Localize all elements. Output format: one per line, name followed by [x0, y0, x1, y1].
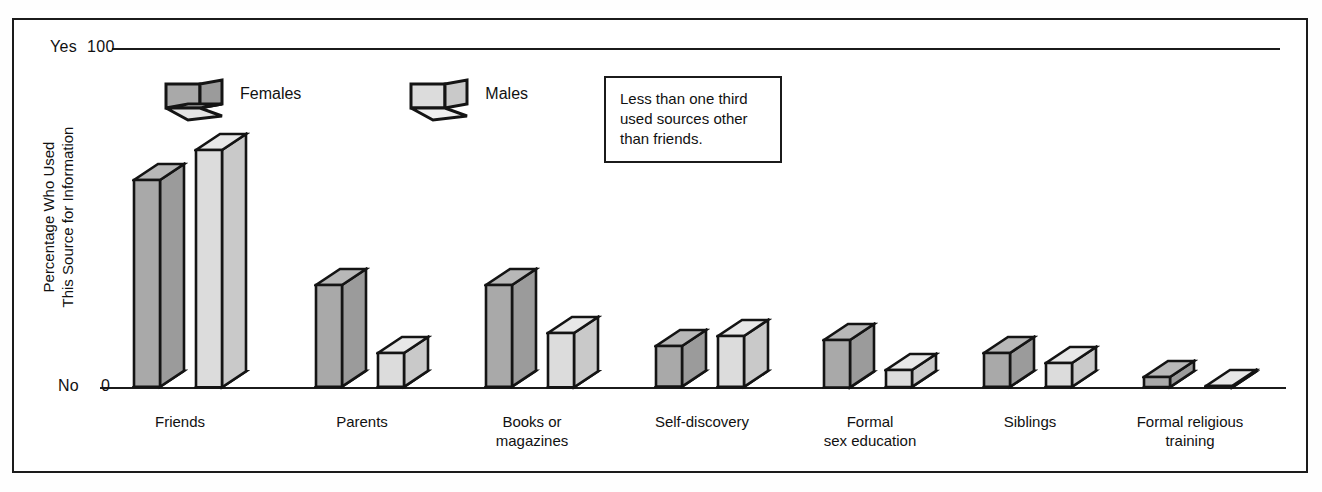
bar-male: [716, 318, 772, 409]
x-axis-label: Books ormagazines: [452, 412, 612, 450]
figure-canvas: Yes100 No0 Percentage Who Used This Sour…: [0, 0, 1322, 492]
x-axis-label-line2: training: [1110, 431, 1270, 450]
x-axis-label: Siblings: [950, 412, 1110, 431]
x-axis-label-line1: Siblings: [950, 412, 1110, 431]
bar-female: [822, 322, 878, 409]
bar-female: [654, 328, 710, 409]
x-axis-label-line1: Friends: [100, 412, 260, 431]
figure-frame: Yes100 No0 Percentage Who Used This Sour…: [12, 18, 1308, 473]
bar-male: [194, 132, 250, 409]
x-axis-label-line2: sex education: [790, 431, 950, 450]
x-axis-label: Formal religioustraining: [1110, 412, 1270, 450]
plot-area: Yes100 No0 Percentage Who Used This Sour…: [14, 20, 1310, 475]
bar-female: [484, 267, 540, 409]
x-axis-labels: FriendsParentsBooks ormagazinesSelf-disc…: [14, 398, 1310, 468]
x-axis-label: Self-discovery: [622, 412, 782, 431]
x-axis-label: Parents: [282, 412, 442, 431]
x-axis-label-line1: Formal: [790, 412, 950, 431]
x-axis-label-line1: Self-discovery: [622, 412, 782, 431]
bar-male: [546, 315, 602, 409]
bar-female: [132, 162, 188, 409]
x-axis-label-line1: Books or: [452, 412, 612, 431]
x-axis-label: Formalsex education: [790, 412, 950, 450]
x-axis-label-line2: magazines: [452, 431, 612, 450]
x-axis-label: Friends: [100, 412, 260, 431]
bar-female: [314, 267, 370, 409]
x-axis-label-line1: Parents: [282, 412, 442, 431]
x-axis-label-line1: Formal religious: [1110, 412, 1270, 431]
